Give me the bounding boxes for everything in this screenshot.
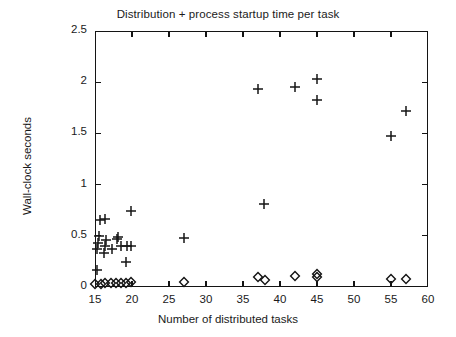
y-tick-label: 2: [47, 74, 87, 86]
y-tick-label: 0.5: [47, 228, 87, 240]
y-tick-label: 2.5: [47, 23, 87, 35]
x-tick-mark: [131, 281, 132, 287]
x-tick-label: 25: [149, 293, 189, 305]
x-tick-label: 45: [297, 293, 337, 305]
x-tick-mark-top: [205, 31, 206, 37]
scatter-plot-figure: Distribution + process startup time per …: [0, 0, 456, 337]
x-tick-label: 55: [371, 293, 411, 305]
x-tick-mark-top: [168, 31, 169, 37]
y-tick-mark-right: [422, 133, 428, 134]
x-tick-mark-top: [390, 31, 391, 37]
x-axis-label: Number of distributed tasks: [0, 313, 456, 325]
x-tick-mark-top: [316, 31, 317, 37]
x-tick-mark: [242, 281, 243, 287]
x-tick-mark-top: [131, 31, 132, 37]
y-tick-label: 1: [47, 177, 87, 189]
x-tick-mark: [279, 281, 280, 287]
plot-area: [95, 31, 428, 287]
y-tick-label: 0: [47, 279, 87, 291]
y-tick-mark: [95, 235, 101, 236]
y-tick-mark-right: [422, 235, 428, 236]
y-tick-mark-right: [422, 82, 428, 83]
x-tick-mark: [353, 281, 354, 287]
x-tick-label: 15: [75, 293, 115, 305]
x-tick-mark-top: [279, 31, 280, 37]
x-tick-mark: [168, 281, 169, 287]
y-axis-label: Wall-clock seconds: [21, 76, 33, 256]
y-tick-mark: [95, 133, 101, 134]
y-tick-mark: [95, 82, 101, 83]
x-tick-mark: [390, 281, 391, 287]
y-tick-label: 1.5: [47, 125, 87, 137]
x-tick-label: 35: [223, 293, 263, 305]
x-tick-label: 40: [260, 293, 300, 305]
x-tick-label: 20: [112, 293, 152, 305]
page-title: Distribution + process startup time per …: [0, 8, 456, 20]
x-tick-mark-top: [242, 31, 243, 37]
x-tick-label: 50: [334, 293, 374, 305]
x-tick-mark: [316, 281, 317, 287]
x-tick-mark-top: [353, 31, 354, 37]
y-tick-mark-right: [422, 184, 428, 185]
x-tick-label: 60: [408, 293, 448, 305]
y-tick-mark: [95, 184, 101, 185]
x-tick-label: 30: [186, 293, 226, 305]
x-tick-mark: [205, 281, 206, 287]
